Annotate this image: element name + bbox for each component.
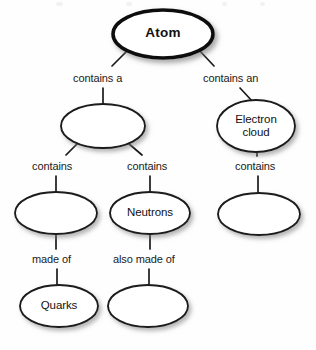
edge-atom-contains-a-upper bbox=[112, 50, 128, 66]
node-electrons[interactable] bbox=[218, 193, 300, 235]
edge-label-contains-a: contains a bbox=[73, 72, 122, 85]
edge-nucleus-contains-right-upper bbox=[128, 143, 142, 155]
edge-label-made-of: made of bbox=[32, 253, 71, 266]
node-label-quarks: Quarks bbox=[20, 299, 98, 312]
node-label-electron-cloud: Electron cloud bbox=[217, 113, 295, 139]
diagram-graphics bbox=[0, 0, 316, 350]
concept-map-canvas: Atom Electron cloud Neutrons Quarks cont… bbox=[0, 0, 316, 350]
edge-label-contains-an: contains an bbox=[203, 72, 258, 85]
node-quarks-alt[interactable] bbox=[108, 285, 188, 327]
edge-atom-contains-an-upper bbox=[199, 50, 214, 66]
node-protons[interactable] bbox=[15, 192, 97, 234]
edge-label-contains-neutrons: contains bbox=[127, 160, 167, 173]
node-label-neutrons: Neutrons bbox=[110, 206, 190, 219]
node-nucleus[interactable] bbox=[61, 104, 145, 148]
edge-label-also-made-of: also made of bbox=[113, 253, 175, 266]
edge-nucleus-contains-left-upper bbox=[66, 143, 78, 155]
edge-label-contains-electrons: contains bbox=[235, 160, 275, 173]
edge-label-contains-protons: contains bbox=[32, 160, 72, 173]
node-label-atom: Atom bbox=[113, 26, 213, 39]
